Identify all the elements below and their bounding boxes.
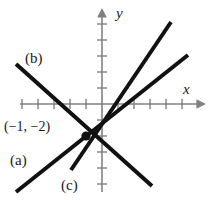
y-axis-label: y xyxy=(116,6,123,21)
intersection-point-dot xyxy=(81,131,90,140)
x-axis-label: x xyxy=(183,82,190,97)
curve-label-b: (b) xyxy=(25,51,43,66)
graph-canvas xyxy=(0,0,208,200)
curve-label-a: (a) xyxy=(10,153,27,168)
figure-container: y x (b) (a) (c) (−1, −2) xyxy=(0,0,208,200)
x-axis-group xyxy=(20,99,198,109)
line-c xyxy=(71,22,171,170)
intersection-point-label: (−1, −2) xyxy=(4,120,50,134)
curve-label-c: (c) xyxy=(61,178,78,193)
